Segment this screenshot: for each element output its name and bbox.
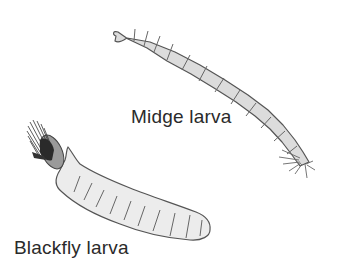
larvae-diagram: Midge larva Blackfly larva	[0, 0, 341, 266]
blackfly-larva-label: Blackfly larva	[14, 238, 129, 257]
larvae-illustration	[0, 0, 341, 266]
blackfly-larva	[27, 120, 210, 240]
midge-larva	[114, 29, 315, 178]
midge-larva-label: Midge larva	[131, 107, 231, 126]
